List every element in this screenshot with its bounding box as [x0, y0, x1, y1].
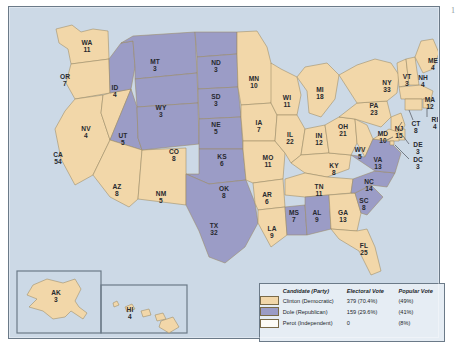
state-ev-NY: 33 [383, 86, 391, 93]
state-ev-CO: 8 [172, 155, 176, 162]
electoral-map-frame: WA11OR7CA54NV4ID4MT3WY3UT5AZ8NM5CO8ND3SD… [8, 6, 440, 339]
state-DC[interactable] [390, 141, 394, 145]
state-NE[interactable] [198, 87, 241, 119]
legend-swatch-cell [260, 318, 283, 329]
state-abbr-AZ: AZ [113, 183, 122, 190]
state-ev-NH: 4 [421, 81, 425, 88]
state-abbr-NJ: NJ [395, 125, 404, 132]
state-abbr-NY: NY [382, 79, 392, 86]
state-ev-MO: 11 [264, 161, 271, 168]
state-label-TX: TX32 [210, 222, 219, 236]
state-MN[interactable] [237, 31, 275, 105]
state-label-MD: MD10 [378, 130, 389, 144]
legend-electoral-value: 159 (29.6%) [347, 306, 399, 317]
state-label-NC: NC14 [364, 178, 374, 192]
state-abbr-TN: TN [315, 183, 324, 190]
state-HI[interactable] [113, 301, 119, 307]
map-legend: Candidate (Party) Electoral Vote Popular… [259, 283, 445, 342]
legend-swatch-perot [260, 319, 279, 328]
state-label-TN: TN11 [315, 183, 324, 197]
state-abbr-MI: MI [316, 86, 324, 93]
state-ev-HI: 4 [128, 313, 132, 320]
state-abbr-KS: KS [217, 153, 227, 160]
state-label-NJ: NJ15 [395, 125, 404, 139]
state-abbr-NV: NV [81, 125, 91, 132]
state-abbr-CA: CA [53, 151, 63, 158]
state-abbr-HI: HI [127, 306, 134, 313]
state-abbr-MS: MS [289, 209, 300, 216]
state-abbr-FL: FL [360, 242, 368, 249]
state-ev-AZ: 8 [115, 190, 119, 197]
state-ev-CA: 54 [54, 158, 62, 165]
state-ev-IA: 7 [257, 126, 261, 133]
state-abbr-IA: IA [256, 119, 263, 126]
state-abbr-DE: DE [413, 141, 423, 148]
state-ev-AL: 9 [315, 216, 319, 223]
legend-row: Dole (Republican)159 (29.6%)(41%) [260, 306, 444, 317]
state-label-MI: MI18 [316, 86, 324, 100]
state-ev-OH: 21 [339, 130, 347, 137]
legend-electoral-value: 379 (70.4%) [347, 295, 399, 306]
state-ev-DC: 3 [416, 163, 420, 170]
state-abbr-OK: OK [219, 185, 229, 192]
state-abbr-WI: WI [283, 94, 291, 101]
legend-popular-value: (49%) [398, 295, 444, 306]
state-label-FL: FL25 [360, 242, 368, 256]
state-label-CT: CT8 [412, 120, 421, 134]
state-label-DE: DE3 [413, 141, 423, 155]
legend-popular-value: (8%) [398, 318, 444, 329]
state-label-RI: RI4 [432, 116, 438, 130]
state-abbr-MN: MN [249, 75, 260, 82]
state-ev-WA: 11 [83, 46, 90, 53]
state-WY[interactable] [135, 73, 198, 107]
state-abbr-IL: IL [287, 131, 293, 138]
state-ev-FL: 25 [360, 249, 368, 256]
state-KY[interactable] [291, 153, 351, 177]
state-abbr-ME: ME [428, 57, 438, 64]
state-ev-MS: 7 [292, 216, 296, 223]
legend-swatch-cell [260, 306, 283, 317]
state-label-CA: CA54 [53, 151, 63, 165]
state-ev-IN: 12 [315, 139, 323, 146]
state-ND[interactable] [195, 32, 237, 57]
state-abbr-CO: CO [169, 148, 179, 155]
state-ev-NC: 14 [365, 185, 373, 192]
state-ev-OR: 7 [63, 80, 67, 87]
state-HI-3[interactable] [141, 309, 151, 317]
legend-swatch-header [260, 287, 283, 295]
state-ev-MT: 3 [153, 65, 157, 72]
state-FL[interactable] [331, 229, 381, 275]
state-abbr-MO: MO [263, 154, 274, 161]
state-ev-WV: 5 [358, 153, 362, 160]
state-ev-AK: 3 [54, 296, 58, 303]
state-ev-NE: 5 [214, 128, 218, 135]
state-label-NY: NY33 [382, 79, 392, 93]
state-CO[interactable] [137, 103, 199, 150]
state-abbr-PA: PA [370, 102, 379, 109]
state-abbr-CT: CT [412, 120, 421, 127]
state-ev-MN: 10 [250, 82, 258, 89]
legend-electoral-value: 0 [347, 318, 399, 329]
state-abbr-MA: MA [425, 96, 436, 103]
state-CT[interactable] [405, 99, 422, 110]
state-abbr-UT: UT [119, 132, 128, 139]
state-ev-KS: 6 [220, 160, 224, 167]
state-abbr-VA: VA [374, 156, 383, 163]
legend-body: Clinton (Democratic)379 (70.4%)(49%)Dole… [260, 295, 444, 329]
legend-candidate-name: Dole (Republican) [283, 306, 347, 317]
state-KS[interactable] [199, 117, 243, 149]
state-abbr-LA: LA [268, 225, 277, 232]
legend-swatch-dem [260, 296, 279, 305]
legend-electoral-header: Electoral Vote [347, 287, 399, 295]
legend-popular-header: Popular Vote [398, 287, 444, 295]
state-label-GA: GA13 [338, 209, 348, 223]
state-label-PA: PA23 [370, 102, 379, 116]
state-label-HI: HI4 [127, 306, 134, 320]
state-abbr-WA: WA [82, 39, 93, 46]
state-OR[interactable] [66, 59, 110, 99]
state-abbr-SD: SD [211, 93, 220, 100]
legend-popular-value: (41%) [398, 306, 444, 317]
state-label-MA: MA12 [425, 96, 436, 110]
page-number-mark: 1 [451, 6, 455, 15]
state-label-MN: MN10 [249, 75, 260, 89]
